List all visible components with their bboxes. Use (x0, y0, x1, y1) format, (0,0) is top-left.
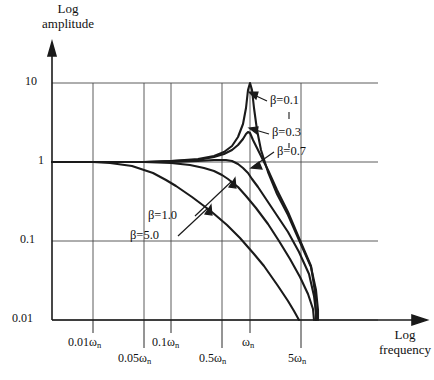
y-axis-title-line2: amplitude (42, 16, 94, 31)
x-tick-num-0.05: 0.05 (118, 351, 139, 365)
series-label-beta-1.0: β=1.0 (148, 208, 177, 222)
y-axis-title-line1: Log (58, 1, 79, 16)
omega-subscript: n (175, 340, 179, 350)
series-label-beta-0.3: β=0.3 (272, 125, 301, 139)
x-tick-label-0.01wn: 0.01ωn (68, 336, 101, 350)
x-tick-num-0.1: 0.1 (152, 335, 167, 349)
omega-glyph: ω (242, 335, 250, 349)
omega-subscript: n (147, 356, 151, 366)
x-tick-label-0.5wn: 0.5ωn (199, 352, 226, 366)
omega-glyph: ω (294, 351, 302, 365)
omega-subscript: n (302, 356, 306, 366)
y-tick-label-10: 10 (25, 75, 37, 88)
y-tick-label-0.1: 0.1 (20, 233, 35, 246)
omega-glyph: ω (139, 351, 147, 365)
series-label-beta-5.0: β=5.0 (130, 228, 159, 242)
bode-magnitude-chart (0, 0, 434, 380)
omega-glyph: ω (167, 335, 175, 349)
x-tick-label-5wn: 5ωn (288, 352, 306, 366)
x-axis-title: Log frequency (368, 328, 434, 357)
y-tick-label-1: 1 (38, 154, 44, 167)
x-axis-title-line2: frequency (379, 342, 431, 357)
x-axis-title-line1: Log (395, 327, 416, 342)
series-label-beta-0.1: β=0.1 (270, 93, 299, 107)
omega-subscript: n (222, 356, 226, 366)
y-axis-title: Log amplitude (22, 2, 114, 31)
y-tick-label-0.01: 0.01 (12, 312, 33, 325)
x-tick-label-0.1wn: 0.1ωn (152, 336, 179, 350)
omega-glyph: ω (214, 351, 222, 365)
omega-glyph: ω (89, 335, 97, 349)
chart-background (0, 0, 434, 380)
x-tick-num-0.01: 0.01 (68, 335, 89, 349)
x-tick-num-0.5: 0.5 (199, 351, 214, 365)
omega-subscript: n (250, 340, 254, 350)
x-tick-label-0.05wn: 0.05ωn (118, 352, 151, 366)
series-label-beta-0.7: β=0.7 (277, 144, 306, 158)
x-tick-label-wn: ωn (242, 336, 254, 350)
omega-subscript: n (97, 340, 101, 350)
